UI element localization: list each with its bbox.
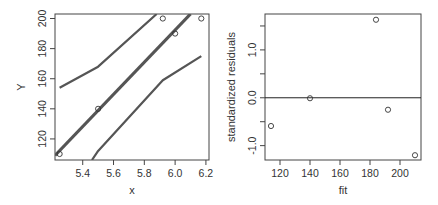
x-tick-label: 160 [331,167,349,179]
data-point [373,17,378,22]
y-tick-label: 140 [36,100,48,118]
x-tick-label: 140 [301,167,319,179]
y-axis-label: Y [15,83,27,91]
y-tick-label: 120 [36,130,48,148]
y-axis-label: standardized residuals [225,31,237,142]
y-tick-label: 0.0 [246,90,258,105]
x-tick-label: 120 [271,167,289,179]
data-point [160,16,165,21]
x-tick-label: 180 [361,167,379,179]
upper-band-line [60,14,157,88]
figure: 5.45.65.86.06.2120140160180200xY 1201401… [0,0,438,205]
plot-frame [265,14,421,160]
y-tick-label: -1.0 [246,136,258,154]
data-point [412,153,417,158]
x-axis-label: fit [339,184,348,196]
panel-fit-plot: 5.45.65.86.06.2120140160180200xY [15,10,213,196]
x-tick-label: 200 [391,167,409,179]
x-tick-label: 5.8 [137,167,152,179]
y-tick-label: 160 [36,70,48,88]
panel-residual-plot: 120140160180200-1.00.01.0fitstandardized… [225,14,421,196]
y-tick-label: 1.0 [246,42,258,57]
fitted-line [55,14,191,155]
data-point [199,16,204,21]
x-axis-label: x [129,184,135,196]
lower-band-line [92,56,201,160]
y-tick-label: 180 [36,40,48,58]
data-point [385,107,390,112]
data-point [268,123,273,128]
x-tick-label: 5.4 [75,167,90,179]
plot-area [55,14,201,160]
x-tick-label: 6.0 [168,167,183,179]
x-tick-label: 5.6 [106,167,121,179]
y-tick-label: 200 [36,10,48,28]
x-tick-label: 6.2 [199,167,214,179]
